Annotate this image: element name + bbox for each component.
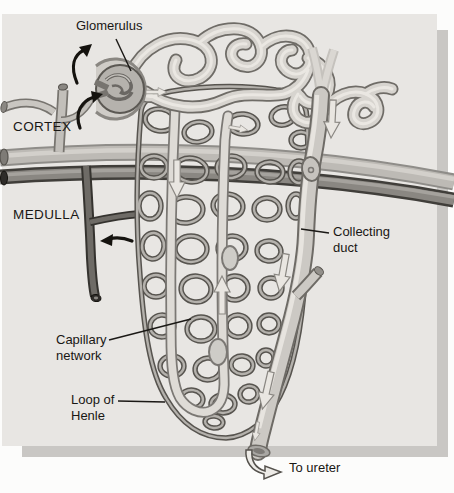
cortex-region-label: CORTEX (13, 119, 71, 135)
glomerulus-label: Glomerulus (76, 18, 142, 34)
medulla-region-label: MEDULLA (13, 207, 80, 223)
figure-nephron-diagram: Glomerulus CORTEX MEDULLA Collecting duc… (0, 0, 454, 493)
loop-of-henle-label: Loop of Henle (71, 392, 131, 424)
capillary-network-label: Capillary network (56, 332, 132, 364)
to-ureter-label: To ureter (289, 460, 340, 476)
collecting-duct-label: Collecting duct (333, 224, 403, 256)
glomerulus-capsule (95, 59, 145, 119)
